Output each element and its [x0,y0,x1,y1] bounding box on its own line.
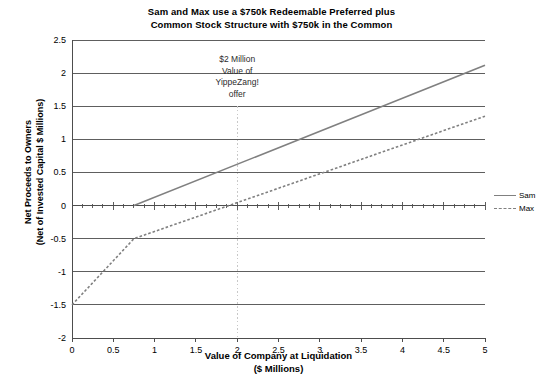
x-tick-label: 4 [387,345,417,355]
y-tick-label: 0.5 [34,167,66,177]
annotation-yippezang-offer: $2 Million Value of YippeZang! offer [182,54,292,100]
legend-swatch-max-icon [494,205,516,213]
legend-item-max[interactable]: Max [494,203,535,214]
data-series [72,65,485,305]
x-tick-label: 3 [305,345,335,355]
x-tick-label: 5 [470,345,500,355]
y-tick-label: 1.5 [34,101,66,111]
legend-label-sam: Sam [519,190,535,201]
y-tick-label: -1 [34,267,66,277]
legend-label-max: Max [519,203,534,214]
annotation-line-3: YippeZang! [182,77,292,89]
chart-container: Sam and Max use a $750k Redeemable Prefe… [0,0,543,383]
annotation-line-4: offer [182,89,292,101]
annotation-line-2: Value of [182,66,292,78]
y-tick-label: 2.5 [34,35,66,45]
x-tick-label: 1.5 [181,345,211,355]
y-tick-label: 2 [34,68,66,78]
y-tick-label: 1 [34,134,66,144]
y-tick-label: -1.5 [34,300,66,310]
y-tick-label: -0.5 [34,234,66,244]
x-tick-label: 3.5 [346,345,376,355]
x-tick-label: 2 [222,345,252,355]
legend-swatch-sam-icon [494,192,516,200]
x-tick-label: 4.5 [429,345,459,355]
legend-item-sam[interactable]: Sam [494,190,535,201]
y-tick-label: 0 [34,201,66,211]
x-tick-label: 0 [57,345,87,355]
x-tick-label: 2.5 [264,345,294,355]
x-tick-label: 0.5 [98,345,128,355]
annotation-line-1: $2 Million [182,54,292,66]
x-axis-tick-marks [72,338,485,342]
y-tick-label: -2 [34,333,66,343]
x-tick-label: 1 [140,345,170,355]
chart-legend: Sam Max [494,190,535,216]
